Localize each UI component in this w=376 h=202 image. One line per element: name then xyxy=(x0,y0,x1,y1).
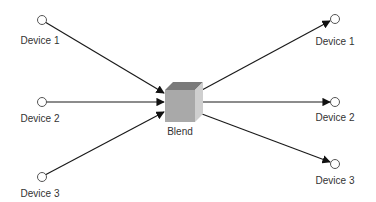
hub-label: Blend xyxy=(167,126,193,137)
edge-input-1 xyxy=(45,22,164,93)
output-node-2[interactable] xyxy=(331,98,340,107)
output-label-3: Device 3 xyxy=(316,175,355,186)
edge-input-3 xyxy=(45,112,164,175)
input-node-2[interactable] xyxy=(38,98,47,107)
blend-diagram: Blend Device 1 Device 2 Device 3 Device … xyxy=(0,0,376,202)
input-node-3[interactable] xyxy=(38,173,47,182)
edge-output-3 xyxy=(202,114,330,162)
output-label-1: Device 1 xyxy=(316,36,355,47)
input-label-2: Device 2 xyxy=(21,113,60,124)
input-label-3: Device 3 xyxy=(21,188,60,199)
output-node-3[interactable] xyxy=(331,160,340,169)
input-node-1[interactable] xyxy=(38,16,47,25)
input-label-1: Device 1 xyxy=(21,35,60,46)
edge-output-1 xyxy=(202,21,330,90)
output-node-1[interactable] xyxy=(331,15,340,24)
output-label-2: Device 2 xyxy=(316,112,355,123)
blend-cube-icon[interactable] xyxy=(165,82,203,122)
